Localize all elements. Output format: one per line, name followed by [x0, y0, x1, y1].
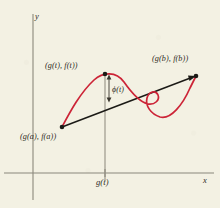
figure-graphics: [0, 0, 220, 208]
figure-canvas: (g(t), f(t)) (g(b), f(b)) (g(a), f(a)) ϕ…: [0, 0, 220, 208]
label-axis-y: y: [35, 12, 39, 21]
point-marker-t: [103, 72, 108, 77]
label-axis-x: x: [203, 176, 207, 185]
chord-line: [62, 77, 193, 127]
point-marker-a: [60, 125, 65, 130]
label-point-t: (g(t), f(t)): [45, 62, 78, 70]
phi-arrow-down-icon: [107, 98, 112, 103]
label-point-b: (g(b), f(b)): [152, 55, 188, 63]
label-tick-gt: g(t): [96, 178, 109, 187]
label-point-a: (g(a), f(a)): [20, 133, 56, 141]
label-phi: ϕ(t): [112, 86, 124, 94]
point-marker-b: [194, 74, 199, 79]
phi-arrow-up-icon: [107, 75, 112, 80]
